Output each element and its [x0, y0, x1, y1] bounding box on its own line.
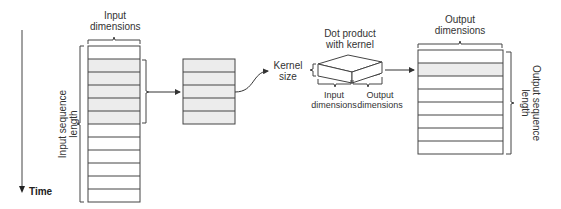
- kernel-size-line2: size: [268, 71, 308, 82]
- dot-product-label: Dot product with kernel: [315, 28, 385, 50]
- time-axis: [19, 30, 25, 193]
- window-grid: [183, 59, 235, 124]
- output-sequence-length-label: Output sequence length: [520, 53, 542, 153]
- dot-product-line1: Dot product: [315, 28, 385, 39]
- output-dimensions-line2: dimensions: [430, 25, 490, 36]
- output-dimensions-label: Output dimensions: [430, 14, 490, 36]
- output-sequence-brace: [506, 52, 514, 154]
- kernel-size-line1: Kernel: [268, 60, 308, 71]
- kernel-size-label: Kernel size: [268, 60, 308, 82]
- dot-product-line2: with kernel: [315, 39, 385, 50]
- input-dimensions-label: Input dimensions: [90, 10, 140, 32]
- output-sequence-grid: [418, 50, 503, 154]
- output-dimensions-line1: Output: [430, 14, 490, 25]
- input-seq-line1: Input sequence: [57, 74, 68, 174]
- output-seq-line2: length: [520, 53, 531, 153]
- input-dimensions-line2: dimensions: [90, 21, 140, 32]
- input-sequence-grid: [88, 46, 140, 202]
- window-brace: [142, 60, 149, 123]
- kernel-output-dimensions-label: Output dimensions: [352, 90, 408, 110]
- kernel-output-line2: dimensions: [352, 100, 408, 110]
- kernel-output-line1: Output: [352, 90, 408, 100]
- input-dimensions-brace: [88, 37, 140, 44]
- time-label: Time: [29, 186, 52, 197]
- input-sequence-length-label: Input sequence length: [57, 74, 79, 174]
- output-seq-line1: Output sequence: [531, 53, 542, 153]
- output-dimensions-brace: [418, 41, 502, 48]
- kernel-size-brace: [310, 64, 316, 76]
- input-seq-line2: length: [68, 74, 79, 174]
- input-dimensions-line1: Input: [90, 10, 140, 21]
- kernel-curve-arrow: [235, 71, 268, 92]
